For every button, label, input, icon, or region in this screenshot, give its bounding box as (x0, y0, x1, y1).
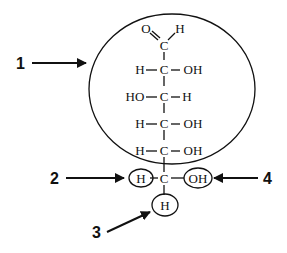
bottom-left-h: H (136, 171, 145, 186)
row2-left: HO (126, 89, 145, 104)
row4-right: OH (184, 143, 203, 158)
callout-3-label: 3 (92, 224, 101, 241)
row3-right: OH (184, 116, 203, 131)
glucose-diagram: O H C H C OH HO C H H C OH H C OH H C OH… (0, 0, 287, 253)
row1-left: H (135, 62, 144, 77)
callout-3-arrow (107, 212, 150, 232)
bottom-right-oh: OH (189, 171, 208, 186)
callout-1-label: 1 (16, 55, 25, 72)
row1-right: OH (184, 62, 203, 77)
row1-carbon: C (160, 62, 169, 77)
callout-2-label: 2 (50, 170, 59, 187)
bottom-below-h: H (160, 198, 169, 213)
row3-carbon: C (160, 116, 169, 131)
aldehyde-hydrogen: H (175, 21, 184, 36)
row4-carbon: C (160, 143, 169, 158)
row4-left: H (135, 143, 144, 158)
row3-left: H (135, 116, 144, 131)
carbon-1: C (160, 38, 169, 53)
bottom-carbon: C (160, 171, 169, 186)
callout-4-label: 4 (263, 170, 272, 187)
row2-right: H (182, 89, 191, 104)
row2-carbon: C (160, 89, 169, 104)
oxygen-atom: O (141, 21, 150, 36)
